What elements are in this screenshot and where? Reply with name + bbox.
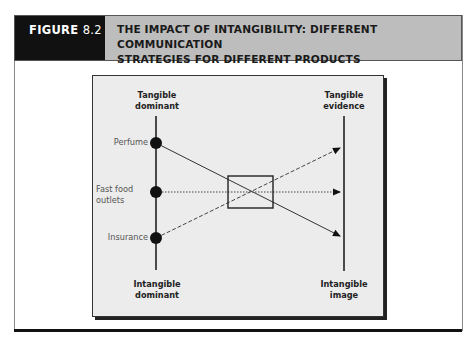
perfume-label: Perfume [96, 137, 148, 148]
insurance-label: Insurance [96, 232, 148, 243]
perfume-dot [150, 137, 162, 149]
diagram-lines [0, 0, 474, 344]
fast-food-label: Fast foodoutlets [96, 184, 148, 206]
fast-food-dot [150, 186, 162, 198]
perfume-arrow [156, 143, 340, 236]
left-axis-top-label: Tangibledominant [126, 90, 188, 112]
insurance-arrow [156, 148, 340, 238]
left-axis-bottom-label: Intangibledominant [126, 279, 188, 301]
insurance-dot [150, 232, 162, 244]
right-axis-bottom-label: Intangibleimage [312, 279, 376, 301]
right-axis-top-label: Tangibleevidence [312, 90, 376, 112]
bottom-rule [14, 329, 462, 332]
